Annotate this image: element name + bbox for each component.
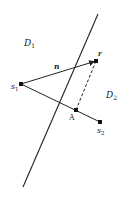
point-label-s2: s2 [97, 126, 105, 136]
point-label-A: A [69, 113, 75, 122]
point-label-s1: s1 [11, 82, 19, 92]
point-s2 [98, 120, 102, 124]
region-label-D1: D1 [23, 38, 35, 49]
boundary-line [23, 14, 98, 187]
point-s1 [19, 82, 23, 86]
point-r [94, 59, 98, 63]
region-label-D2: D2 [105, 90, 117, 101]
dashed-projection-r-A [76, 61, 96, 110]
segment-s1-s2 [21, 84, 100, 122]
diagram-canvas: D1 D2 s1 n r A s2 [0, 0, 126, 197]
vector-label-n: n [54, 62, 59, 71]
point-A [74, 108, 78, 112]
point-label-r: r [98, 49, 103, 58]
